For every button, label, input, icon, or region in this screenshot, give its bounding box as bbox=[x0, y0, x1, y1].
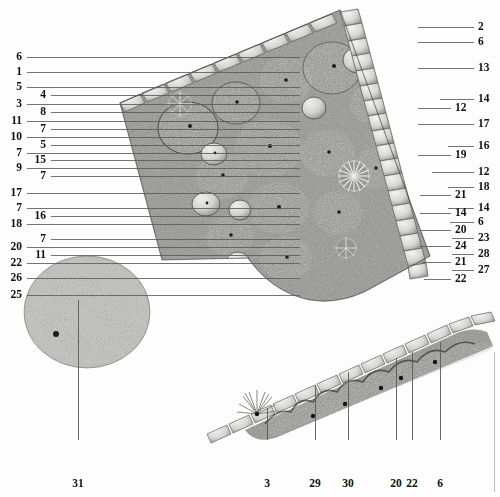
leader-line-right-0 bbox=[418, 27, 474, 28]
callout-label-left-10: 7 bbox=[16, 147, 22, 159]
callout-label-right-12: 14 bbox=[455, 207, 467, 219]
leader-line-bottom-6 bbox=[440, 342, 441, 440]
leader-line-right-20 bbox=[424, 279, 451, 280]
leader-line-left-10 bbox=[27, 153, 300, 154]
callout-label-right-8: 12 bbox=[478, 166, 490, 178]
callout-label-left-22: 26 bbox=[11, 272, 23, 284]
leader-line-right-7 bbox=[418, 155, 451, 156]
callout-label-right-14: 20 bbox=[455, 224, 467, 236]
planting-plan-figure: 61543811710571597177161872011222625 2613… bbox=[0, 0, 500, 497]
leader-line-right-18 bbox=[422, 262, 451, 263]
callout-label-right-4: 12 bbox=[455, 102, 467, 114]
callout-label-left-13: 7 bbox=[40, 170, 46, 182]
callout-label-left-11: 15 bbox=[35, 154, 47, 166]
leader-line-left-13 bbox=[51, 176, 300, 177]
callout-label-left-4: 3 bbox=[16, 98, 22, 110]
tuft-node bbox=[255, 412, 259, 416]
callout-label-left-5: 8 bbox=[40, 106, 46, 118]
callout-label-left-21: 22 bbox=[11, 257, 23, 269]
leader-line-bottom-1 bbox=[267, 408, 268, 440]
leader-line-left-16 bbox=[51, 216, 300, 217]
callout-label-bottom-3: 30 bbox=[342, 478, 354, 490]
leader-line-left-20 bbox=[51, 255, 300, 256]
callout-label-right-2: 13 bbox=[478, 62, 490, 74]
callout-label-left-8: 10 bbox=[11, 131, 23, 143]
callout-label-left-3: 4 bbox=[40, 89, 46, 101]
callout-label-left-17: 18 bbox=[11, 218, 23, 230]
callout-label-left-1: 1 bbox=[16, 66, 22, 78]
leader-line-bottom-5 bbox=[412, 352, 413, 440]
leader-line-right-16 bbox=[420, 246, 451, 247]
right-margin-rule bbox=[494, 352, 495, 492]
callout-label-left-18: 7 bbox=[40, 233, 46, 245]
callout-label-right-20: 22 bbox=[455, 273, 467, 285]
leader-line-right-2 bbox=[418, 68, 474, 69]
callout-label-bottom-2: 29 bbox=[309, 478, 321, 490]
leader-line-left-15 bbox=[27, 208, 300, 209]
callout-label-bottom-4: 20 bbox=[390, 478, 402, 490]
leader-line-left-9 bbox=[51, 145, 300, 146]
callout-label-bottom-5: 22 bbox=[406, 478, 418, 490]
leader-line-right-4 bbox=[418, 108, 451, 109]
leader-line-left-6 bbox=[27, 121, 300, 122]
leader-line-left-1 bbox=[27, 72, 300, 73]
leader-line-left-22 bbox=[27, 278, 300, 279]
leader-line-bottom-3 bbox=[348, 372, 349, 440]
leader-line-left-21 bbox=[27, 263, 300, 264]
callout-label-right-15: 23 bbox=[478, 232, 490, 244]
leader-line-right-1 bbox=[418, 42, 474, 43]
callout-label-right-16: 24 bbox=[455, 240, 467, 252]
leader-line-bottom-0 bbox=[78, 300, 79, 440]
leader-line-left-2 bbox=[27, 87, 300, 88]
callout-label-bottom-1: 3 bbox=[264, 478, 270, 490]
callout-label-right-9: 18 bbox=[478, 181, 490, 193]
callout-label-bottom-0: 31 bbox=[72, 478, 84, 490]
callout-label-right-0: 2 bbox=[478, 21, 484, 33]
leader-line-right-10 bbox=[420, 195, 451, 196]
leader-line-right-8 bbox=[432, 172, 474, 173]
leader-line-left-12 bbox=[27, 168, 300, 169]
linear-strip-bed bbox=[205, 312, 500, 442]
main-wedge-bed bbox=[118, 8, 458, 304]
callout-label-left-0: 6 bbox=[16, 51, 22, 63]
leader-line-left-17 bbox=[27, 224, 300, 225]
leader-line-right-14 bbox=[420, 230, 451, 231]
callout-label-right-1: 6 bbox=[478, 36, 484, 48]
callout-label-left-12: 9 bbox=[16, 162, 22, 174]
callout-label-left-9: 5 bbox=[40, 139, 46, 151]
leader-line-left-11 bbox=[51, 160, 300, 161]
leader-line-left-8 bbox=[27, 137, 300, 138]
callout-label-left-16: 16 bbox=[35, 210, 47, 222]
leader-line-right-19 bbox=[452, 270, 474, 271]
callout-label-right-11: 14 bbox=[478, 202, 490, 214]
callout-label-right-10: 21 bbox=[455, 189, 467, 201]
callout-label-right-19: 27 bbox=[478, 264, 490, 276]
callout-label-left-2: 5 bbox=[16, 81, 22, 93]
round-island-bed bbox=[14, 250, 160, 370]
callout-label-right-13: 6 bbox=[478, 216, 484, 228]
callout-label-bottom-6: 6 bbox=[437, 478, 443, 490]
leader-line-left-14 bbox=[27, 193, 300, 194]
leader-line-bottom-4 bbox=[396, 358, 397, 440]
callout-label-right-7: 19 bbox=[455, 149, 467, 161]
callout-label-left-7: 7 bbox=[40, 123, 46, 135]
callout-label-left-20: 11 bbox=[35, 249, 46, 261]
leader-line-left-7 bbox=[51, 129, 300, 130]
callout-label-right-17: 28 bbox=[478, 248, 490, 260]
callout-label-left-19: 20 bbox=[11, 241, 23, 253]
leader-line-left-5 bbox=[51, 112, 300, 113]
callout-label-left-14: 17 bbox=[11, 187, 23, 199]
leader-line-left-4 bbox=[27, 104, 300, 105]
leader-line-right-3 bbox=[440, 99, 474, 100]
callout-label-left-15: 7 bbox=[16, 202, 22, 214]
callout-label-right-5: 17 bbox=[478, 118, 490, 130]
callout-label-right-3: 14 bbox=[478, 93, 490, 105]
strip-stone-edging bbox=[207, 312, 495, 443]
callout-label-left-23: 25 bbox=[11, 289, 23, 301]
leader-line-left-0 bbox=[27, 57, 300, 58]
leader-line-right-12 bbox=[420, 213, 451, 214]
callout-label-right-6: 16 bbox=[478, 140, 490, 152]
leader-line-right-6 bbox=[448, 146, 474, 147]
leader-line-right-5 bbox=[418, 124, 474, 125]
leader-line-left-19 bbox=[27, 247, 300, 248]
